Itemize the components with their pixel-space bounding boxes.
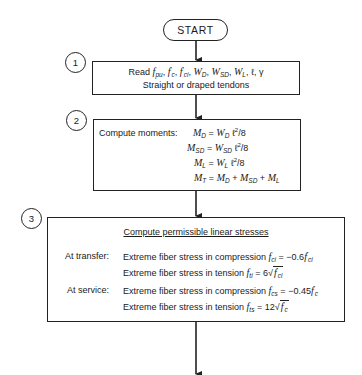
transfer-compression-row: Extreme fiber stress in compression fci … <box>123 251 313 262</box>
step-2-compute-moments-box: Compute moments: MD = WD ℓ2/8 MSD = WSD … <box>93 119 301 191</box>
step-1-read-line: Read fpu, f′c, f′ci, WD, WSD, WL, ℓ, γ <box>93 66 299 77</box>
service-compression-row: Extreme fiber stress in compression fcs … <box>123 285 318 296</box>
step-2-number-badge: 2 <box>66 110 87 131</box>
equation-superimposed-dead-load-moment: MSD = WSD ℓ2/8 <box>187 142 248 153</box>
start-terminator: START <box>163 19 228 41</box>
transfer-tension-row: Extreme fiber stress in tension fti = 6√… <box>123 266 283 279</box>
equation-live-load-moment: ML = WL ℓ2/8 <box>194 157 245 168</box>
service-tension-row: Extreme fiber stress in tension fts = 12… <box>123 300 289 313</box>
transfer-label: At transfer: <box>65 251 109 261</box>
service-label: At service: <box>67 285 109 295</box>
step-3-number-badge: 3 <box>21 208 42 229</box>
step-3-permissible-stresses-box: Compute permissible linear stresses At t… <box>47 217 345 322</box>
step-2-title: Compute moments: <box>99 128 178 138</box>
step-1-input-box: Read fpu, f′c, f′ci, WD, WSD, WL, ℓ, γ S… <box>92 61 300 95</box>
equation-total-moment: MT = MD + MSD + ML <box>194 172 280 183</box>
start-label: START <box>177 24 213 36</box>
equation-dead-load-moment: MD = WD ℓ2/8 <box>193 127 246 138</box>
step-1-tendon-line: Straight or draped tendons <box>93 80 299 90</box>
step-1-number-badge: 1 <box>65 52 86 73</box>
step-3-title: Compute permissible linear stresses <box>48 227 344 237</box>
